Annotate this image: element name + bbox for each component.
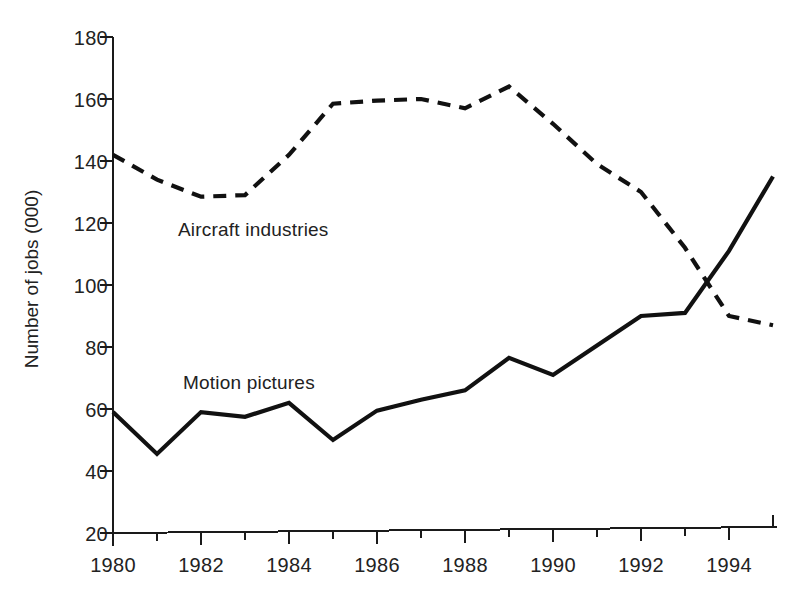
series-line-motion-pictures bbox=[113, 177, 773, 454]
series-line-aircraft-industries bbox=[113, 87, 773, 326]
x-axis-spine bbox=[113, 527, 777, 533]
plot-area bbox=[0, 0, 802, 603]
y-axis-ticks bbox=[100, 37, 113, 533]
figure-container: Number of jobs (000) 180 160 140 120 100… bbox=[0, 0, 802, 603]
